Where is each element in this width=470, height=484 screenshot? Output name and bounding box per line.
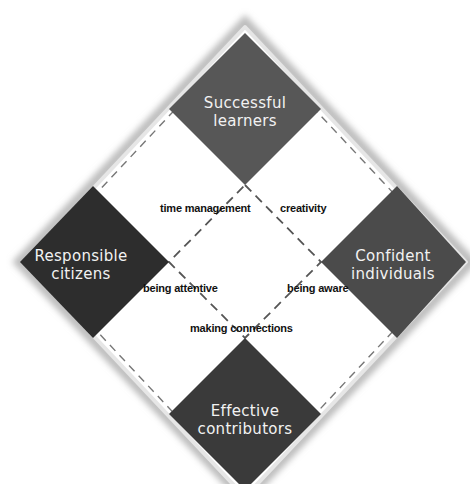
skill-being-attentive: being attentive <box>143 282 218 294</box>
skill-creativity: creativity <box>280 202 326 214</box>
label-line: Responsible <box>6 247 156 265</box>
label-responsible-citizens: Responsible citizens <box>6 247 156 283</box>
label-line: contributors <box>170 420 320 438</box>
label-effective-contributors: Effective contributors <box>170 402 320 438</box>
label-line: learners <box>170 112 320 130</box>
label-line: citizens <box>6 265 156 283</box>
label-successful-learners: Successful learners <box>170 94 320 130</box>
label-confident-individuals: Confident individuals <box>318 247 468 283</box>
label-line: Effective <box>170 402 320 420</box>
curriculum-diamond-diagram: Successful learners Responsible citizens… <box>0 0 470 484</box>
skill-making-connections: making connections <box>190 322 293 334</box>
skill-being-aware: being aware <box>287 282 348 294</box>
label-line: Successful <box>170 94 320 112</box>
label-line: individuals <box>318 265 468 283</box>
label-line: Confident <box>318 247 468 265</box>
skill-time-management: time management <box>160 202 251 214</box>
